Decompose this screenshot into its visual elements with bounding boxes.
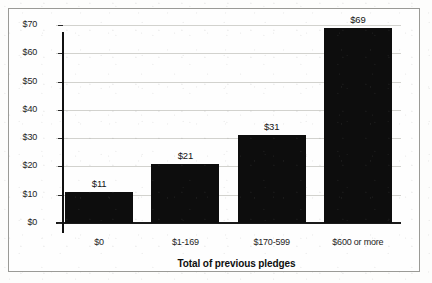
bar-value-label: $21 bbox=[145, 150, 225, 161]
x-axis-category-label: $170-599 bbox=[222, 237, 322, 247]
y-axis-tick-label: $70 bbox=[0, 19, 37, 29]
figure: $0$10$20$30$40$50$60$70 $11$0$21$1-169$3… bbox=[0, 0, 432, 283]
y-axis-line bbox=[62, 32, 64, 233]
y-axis-tick-label: $10 bbox=[0, 189, 37, 199]
y-axis-tick-label: $40 bbox=[0, 104, 37, 114]
y-axis-tick-label: $0 bbox=[0, 217, 37, 227]
y-axis-tick-label: $30 bbox=[0, 132, 37, 142]
gridline bbox=[56, 25, 401, 26]
x-axis-category-label: $600 or more bbox=[308, 237, 408, 247]
y-axis-tick-label: $50 bbox=[0, 76, 37, 86]
chart-frame: $0$10$20$30$40$50$60$70 $11$0$21$1-169$3… bbox=[8, 8, 420, 272]
y-axis-tick-label: $20 bbox=[0, 160, 37, 170]
bar bbox=[151, 164, 219, 223]
x-axis-category-label: $0 bbox=[49, 237, 149, 247]
y-axis-tick-label: $60 bbox=[0, 47, 37, 57]
bar bbox=[238, 135, 306, 223]
y-axis-tickmark bbox=[58, 25, 63, 26]
bar-value-label: $69 bbox=[318, 14, 398, 25]
bar-value-label: $11 bbox=[59, 178, 139, 189]
bar bbox=[65, 192, 133, 223]
bar-value-label: $31 bbox=[232, 121, 312, 132]
bar bbox=[324, 28, 392, 223]
x-axis-category-label: $1-169 bbox=[135, 237, 235, 247]
x-axis-title: Total of previous pledges bbox=[64, 258, 409, 269]
